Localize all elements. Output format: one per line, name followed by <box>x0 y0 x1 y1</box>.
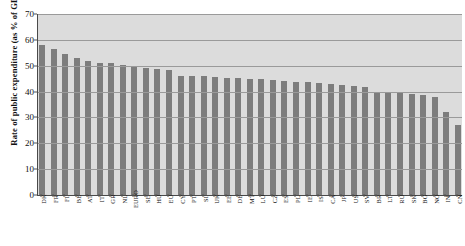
cropped-title-stub <box>150 0 270 4</box>
x-tick-label: BR <box>376 195 382 204</box>
x-tick-group: DE <box>234 197 240 246</box>
x-axis-tick-labels: DKFRFIBEATITGRNLEUROSEHUEUCYPTSIUKEEDEMT… <box>37 197 461 246</box>
bar-series <box>38 14 462 195</box>
x-tick-label: RU <box>399 194 405 203</box>
x-tick-group: BR <box>373 197 379 246</box>
x-tick-group: NO <box>431 197 437 246</box>
x-tick-label: EE <box>226 195 232 203</box>
x-tick-label: NL <box>122 195 128 204</box>
x-tick-label: DE <box>237 195 243 204</box>
x-tick-label: ES <box>283 195 289 203</box>
y-tick-label: 0 <box>14 191 34 200</box>
x-tick-label: LU <box>260 195 266 204</box>
x-tick-group: SK <box>408 197 414 246</box>
gridline <box>38 143 462 144</box>
gridline <box>38 92 462 93</box>
x-tick-group: IS <box>315 197 321 246</box>
bar <box>51 49 57 195</box>
y-tick-label: 40 <box>14 87 34 96</box>
x-tick-label: UK <box>214 194 220 204</box>
x-tick-label: SK <box>411 195 417 204</box>
bar <box>97 63 103 195</box>
x-tick-label: EU <box>168 195 174 204</box>
x-tick-label: IE <box>307 196 313 202</box>
gridline <box>38 117 462 118</box>
x-tick-group: US <box>350 197 356 246</box>
x-tick-group: FR <box>50 197 56 246</box>
x-tick-group: CY <box>177 197 183 246</box>
x-tick-label: HU <box>156 194 162 204</box>
x-tick-group: EU <box>165 197 171 246</box>
x-tick-group: LU <box>257 197 263 246</box>
bar <box>362 87 368 195</box>
bar <box>212 77 218 195</box>
x-tick-label: CZ <box>272 195 278 204</box>
x-tick-label: JP <box>341 196 347 202</box>
gridline <box>38 66 462 67</box>
x-tick-label: SI <box>203 196 209 202</box>
bar <box>328 84 334 195</box>
y-axis-tick-labels: 010203040506070 <box>14 14 34 195</box>
x-tick-group: BE <box>73 197 79 246</box>
x-tick-group: SE <box>142 197 148 246</box>
bar <box>409 94 415 195</box>
x-tick-label: GR <box>110 194 116 203</box>
x-tick-label: FR <box>53 195 59 203</box>
bar <box>201 76 207 195</box>
x-tick-group: UK <box>211 197 217 246</box>
bar <box>108 63 114 195</box>
y-tick-label: 50 <box>14 61 34 70</box>
x-tick-group: MT <box>246 197 252 246</box>
x-tick-group: EE <box>223 197 229 246</box>
x-tick-label: CA <box>330 194 336 203</box>
x-tick-group: IT <box>96 197 102 246</box>
x-tick-label: LT <box>387 195 393 203</box>
x-tick-group: IE <box>304 197 310 246</box>
x-tick-group: PL <box>292 197 298 246</box>
x-tick-group: AT <box>84 197 90 246</box>
bar <box>351 86 357 195</box>
bar <box>166 70 172 195</box>
bar <box>432 97 438 195</box>
bar <box>258 79 264 195</box>
gridline <box>38 14 462 15</box>
x-tick-group: SV <box>361 197 367 246</box>
x-tick-group: BG <box>419 197 425 246</box>
bar <box>178 76 184 195</box>
x-tick-label: IN <box>445 195 451 202</box>
x-tick-group: CZ <box>269 197 275 246</box>
bar <box>316 83 322 195</box>
bar <box>270 80 276 195</box>
bar <box>120 65 126 195</box>
x-tick-group: SI <box>200 197 206 246</box>
y-tick-label: 10 <box>14 165 34 174</box>
x-tick-group: CN <box>454 197 460 246</box>
chart-figure: Rate of public expenditure (as % of GDP)… <box>0 0 465 246</box>
plot-area <box>37 14 462 196</box>
bar <box>420 95 426 195</box>
y-tick-label: 30 <box>14 113 34 122</box>
x-tick-label: US <box>353 195 359 204</box>
x-tick-label: EURO <box>133 190 139 208</box>
bar <box>247 79 253 195</box>
x-tick-group: IN <box>442 197 448 246</box>
y-tick-label: 60 <box>14 35 34 44</box>
x-tick-group: FI <box>61 197 67 246</box>
bar <box>224 78 230 195</box>
x-tick-group: CA <box>327 197 333 246</box>
x-tick-group: LT <box>384 197 390 246</box>
bar <box>62 54 68 195</box>
x-tick-group: EURO <box>130 197 136 246</box>
bar <box>154 69 160 195</box>
bar <box>281 81 287 195</box>
bar <box>293 82 299 196</box>
x-tick-label: PL <box>295 195 301 203</box>
gridline <box>38 40 462 41</box>
x-tick-group: HU <box>153 197 159 246</box>
gridline <box>38 169 462 170</box>
bar <box>74 58 80 195</box>
bar <box>305 82 311 195</box>
x-tick-label: CY <box>180 194 186 203</box>
x-tick-label: CN <box>457 194 463 203</box>
x-tick-group: PT <box>188 197 194 246</box>
